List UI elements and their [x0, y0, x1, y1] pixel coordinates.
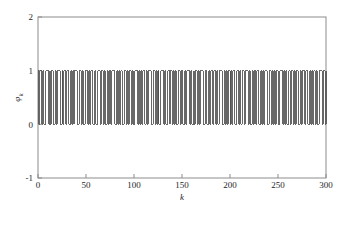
y-tick-label: 2 [29, 12, 34, 22]
binary-sequence-chart: -1012 050100150200250300 kφk [0, 0, 349, 235]
x-tick-label: 150 [175, 180, 189, 190]
data-series-phi-k [38, 71, 326, 125]
y-axis-title: φk [12, 93, 24, 101]
x-tick-label: 250 [271, 180, 285, 190]
x-tick-label: 300 [319, 180, 333, 190]
x-axis-title: k [180, 192, 185, 202]
y-tick-label: -1 [26, 173, 34, 183]
figure-caption [0, 220, 349, 234]
y-tick-label: 0 [29, 120, 34, 130]
x-axis-ticks: 050100150200250300 [36, 174, 334, 190]
phi-k-step-line [38, 71, 326, 125]
x-tick-label: 0 [36, 180, 41, 190]
x-tick-label: 50 [82, 180, 92, 190]
x-tick-label: 100 [127, 180, 141, 190]
svg-text:φk: φk [12, 93, 24, 101]
x-tick-label: 200 [223, 180, 237, 190]
figure-container: -1012 050100150200250300 kφk [0, 0, 349, 235]
y-tick-label: 1 [29, 66, 34, 76]
